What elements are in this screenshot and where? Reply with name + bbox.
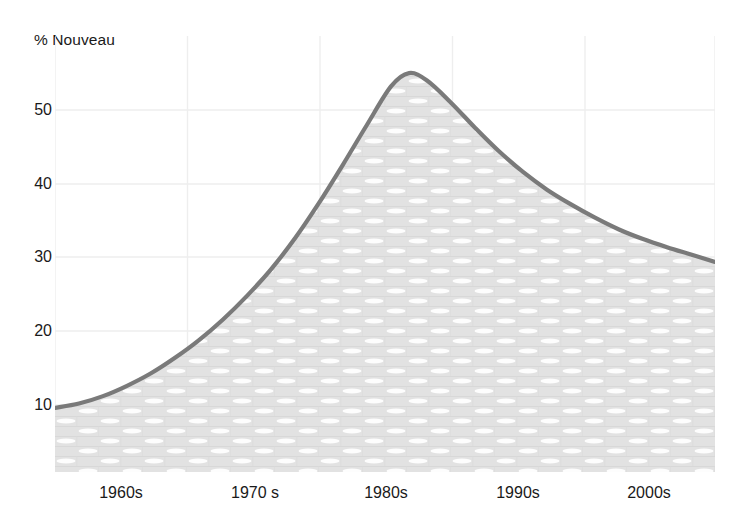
plot-area <box>55 36 715 472</box>
x-axis-tick-label: 1960s <box>99 485 143 501</box>
y-axis-tick-label: 10 <box>8 397 52 413</box>
x-axis-tick-label: 2000s <box>627 485 671 501</box>
x-axis-tick-label: 1990s <box>496 485 540 501</box>
y-axis-tick-label: 20 <box>8 323 52 339</box>
x-axis-tick-label: 1970 s <box>231 485 279 501</box>
x-axis-tick-label: 1980s <box>364 485 408 501</box>
area-fill <box>55 73 715 472</box>
y-axis-tick-label: 30 <box>8 249 52 265</box>
area-chart-svg <box>55 36 715 472</box>
y-axis-tick-label: 50 <box>8 102 52 118</box>
y-axis-tick-label: 40 <box>8 176 52 192</box>
y-axis: 5040302010 <box>0 0 52 529</box>
chart-container: % Nouveau 5040302010 1960s1970 s1980s199… <box>0 0 737 529</box>
